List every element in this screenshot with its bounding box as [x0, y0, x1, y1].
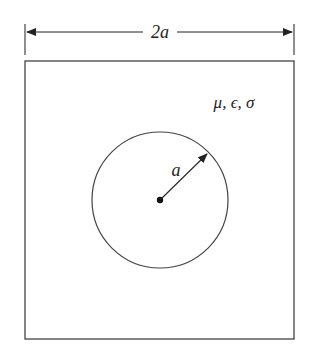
radius-arrow	[160, 154, 207, 200]
width-label: 2a	[151, 22, 169, 42]
diagram-canvas: 2a μ, ϵ, σ a	[0, 0, 309, 364]
material-properties-label: μ, ϵ, σ	[213, 93, 255, 112]
radius-label: a	[172, 160, 181, 180]
